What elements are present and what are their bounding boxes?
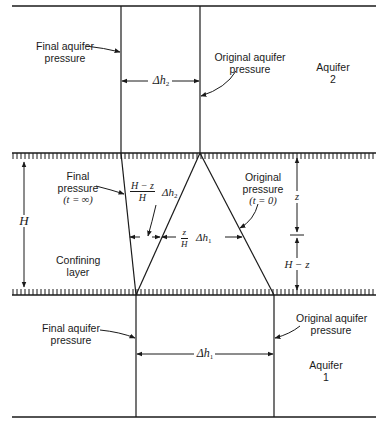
h-minus-z-label: H − z	[282, 258, 312, 270]
label-line: pressure	[296, 324, 366, 336]
label-line: (t = 0)	[238, 195, 288, 207]
denominator: H	[130, 192, 155, 203]
label-line: pressure	[38, 334, 104, 346]
frac-h2-fraction: H − z H	[130, 180, 155, 203]
delta-symbol: Δh	[153, 73, 166, 87]
label-line: layer	[56, 266, 100, 278]
label-line: Final aquifer	[38, 322, 104, 334]
frac-h2-term: Δh2	[162, 186, 177, 202]
numerator: z	[181, 227, 188, 239]
label-line: Final	[56, 170, 100, 182]
delta-symbol: Δh	[197, 346, 210, 360]
delta-symbol: Δh	[196, 231, 208, 243]
upper-confining-boundary	[12, 153, 376, 159]
label-line: pressure	[210, 63, 290, 75]
label-line: Original	[238, 171, 288, 183]
final-pressure-label: Final pressure (t = ∞)	[56, 170, 100, 206]
label-line: Aquifer	[313, 61, 353, 73]
label-line: pressure	[238, 183, 288, 195]
delta-h2-label: Δh2	[148, 74, 174, 90]
confining-layer-label: Confining layer	[56, 254, 100, 278]
aquifer2-label: Aquifer 2	[313, 61, 353, 85]
aquifer2-final-pressure-label: Final aquifer pressure	[30, 40, 100, 64]
label-line: Original aquifer	[296, 312, 366, 324]
aquifer2-original-pressure-label: Original aquifer pressure	[210, 51, 290, 75]
lower-confining-boundary	[12, 289, 376, 295]
subscript: 1	[210, 353, 214, 361]
original-pressure-profile-left	[136, 153, 200, 295]
frac-h1-term: Δh1	[196, 231, 211, 247]
aquifer1-final-pressure-label: Final aquifer pressure	[38, 322, 104, 346]
label-line: Final aquifer	[30, 40, 100, 52]
final-pressure-profile	[121, 153, 136, 295]
subscript: 1	[208, 237, 212, 245]
z-label: z	[292, 191, 302, 203]
numerator: H − z	[130, 180, 155, 192]
subscript: 2	[166, 80, 170, 88]
leader-aq1-final	[100, 330, 135, 338]
leader-cl-final	[96, 186, 124, 194]
h-thickness-label: H	[16, 215, 32, 227]
label-line: Confining	[56, 254, 100, 266]
label-line: 1	[306, 371, 346, 383]
label-line: Original aquifer	[210, 51, 290, 63]
label-line: pressure	[56, 182, 100, 194]
delta-h1-label: Δh1	[194, 347, 216, 363]
leader-cl-frac	[148, 205, 156, 236]
aquifer1-original-pressure-label: Original aquifer pressure	[296, 312, 366, 336]
original-pressure-label: Original pressure (t = 0)	[238, 171, 288, 207]
label-line: 2	[313, 73, 353, 85]
label-line: pressure	[30, 52, 100, 64]
label-line: (t = ∞)	[56, 194, 100, 206]
label-line: Aquifer	[306, 359, 346, 371]
leader-cl-original	[240, 204, 258, 228]
subscript: 2	[174, 192, 178, 200]
aquifer1-label: Aquifer 1	[306, 359, 346, 383]
denominator: H	[181, 239, 188, 250]
delta-symbol: Δh	[162, 186, 174, 198]
frac-h1-fraction: z H	[181, 227, 188, 250]
